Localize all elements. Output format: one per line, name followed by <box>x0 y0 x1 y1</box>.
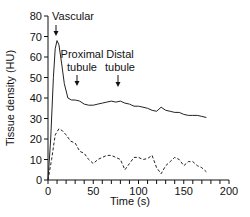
y-tick-label: 50 <box>30 72 42 84</box>
series-dashed-line <box>48 129 206 180</box>
y-tick-label: 80 <box>30 10 42 22</box>
arrow-down-icon <box>54 31 59 36</box>
annotation-proximal: Proximal <box>61 48 104 60</box>
annotation-vascular: Vascular <box>52 10 94 22</box>
x-tick-label: 50 <box>87 185 99 197</box>
annotation-distal: Distal <box>106 48 134 60</box>
y-axis-ticks: 01020304050607080 <box>30 10 48 186</box>
annotations: VascularProximaltubuleDistaltubule <box>52 10 135 87</box>
y-tick-label: 20 <box>30 133 42 145</box>
y-tick-label: 0 <box>36 174 42 186</box>
y-tick-label: 70 <box>30 31 42 43</box>
annotation-distal-2: tubule <box>105 61 135 73</box>
y-tick-label: 60 <box>30 51 42 63</box>
x-tick-label: 200 <box>220 185 238 197</box>
arrow-down-icon <box>75 81 80 86</box>
y-tick-label: 10 <box>30 154 42 166</box>
axes <box>48 16 229 180</box>
y-tick-label: 30 <box>30 113 42 125</box>
y-axis-label: Tissue density (HU) <box>4 50 16 146</box>
annotation-proximal-2: tubule <box>67 61 97 73</box>
y-tick-label: 40 <box>30 92 42 104</box>
x-axis-label: Time (s) <box>110 195 150 207</box>
arrow-down-icon <box>116 82 121 87</box>
x-tick-label: 150 <box>175 185 193 197</box>
chart: 01020304050607080 050100150200 VascularP… <box>0 0 250 217</box>
x-tick-label: 0 <box>45 185 51 197</box>
